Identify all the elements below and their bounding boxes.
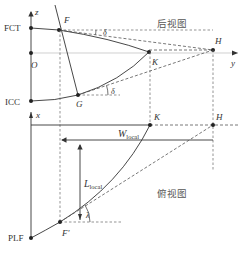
delta-top-label: δ (103, 28, 107, 37)
lower-surface-curve (31, 52, 149, 101)
f-prime-label: F' (61, 228, 70, 238)
top-view-title: 俯视图 (157, 188, 187, 199)
x-axis-arrow-icon (29, 112, 33, 118)
g-to-h-dashed (78, 50, 213, 95)
k-top-label: K (153, 112, 161, 122)
h-top-label: H (215, 112, 223, 122)
point-fct (29, 26, 33, 30)
wing-geometry-diagram: z y δ δ FCT ICC O (0, 0, 244, 254)
icc-label: ICC (5, 97, 20, 107)
rear-view: z y δ δ FCT ICC O (4, 5, 238, 109)
z-axis-label: z (34, 7, 39, 17)
k-label: K (151, 57, 159, 67)
point-k (147, 50, 151, 54)
point-k-top (148, 123, 152, 127)
o-label: O (31, 60, 38, 70)
point-icc (29, 99, 33, 103)
point-f-prime (58, 220, 62, 224)
fct-label: FCT (4, 23, 21, 33)
point-g (76, 93, 80, 97)
y-axis-label: y (230, 58, 235, 68)
fct-f-line (31, 28, 59, 30)
top-view: x Wlocal Llocal λ K H F' PLF 俯视图 (8, 110, 240, 243)
point-o (29, 51, 33, 55)
f-to-h-dashed (59, 30, 213, 50)
plf-label: PLF (8, 233, 24, 243)
point-f (57, 28, 61, 32)
y-axis-arrow-icon (232, 51, 238, 56)
h-label: H (214, 36, 222, 46)
g-label: G (76, 99, 83, 109)
delta-bottom-label: δ (111, 87, 115, 96)
f-label: F (63, 15, 70, 25)
l-local-arrow-bottom-icon (78, 214, 82, 220)
leading-edge-curve (31, 125, 150, 238)
l-local-label: Llocal (83, 178, 102, 190)
x-axis-label: x (35, 110, 40, 120)
lambda-label: λ (85, 211, 90, 220)
delta-top-arc (96, 30, 97, 35)
point-h-top (211, 123, 215, 127)
w-local-label: Wlocal (118, 128, 139, 140)
rear-view-title: 后视图 (157, 18, 187, 29)
point-plf (29, 236, 33, 240)
delta-bottom-arc (107, 86, 109, 96)
